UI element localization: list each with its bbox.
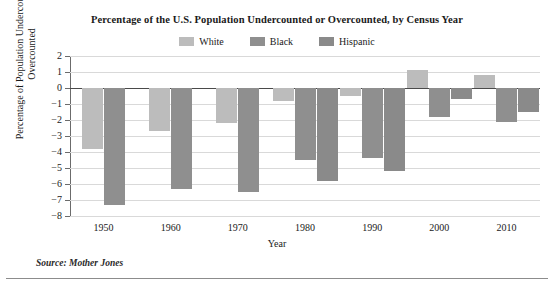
y-tick-mark <box>65 120 70 121</box>
y-tick-label: 2 <box>22 51 62 61</box>
y-tick-mark <box>65 152 70 153</box>
bar-black-2000 <box>429 88 450 117</box>
legend-item-white: White <box>179 36 223 47</box>
y-tick-mark <box>65 56 70 57</box>
y-tick-label: −5 <box>22 163 62 173</box>
x-tick-label-2010: 2010 <box>476 222 536 233</box>
x-tick-label-1950: 1950 <box>74 222 134 233</box>
gridline <box>70 184 540 185</box>
y-tick-label: 0 <box>22 83 62 93</box>
y-tick-mark <box>65 88 70 89</box>
bar-white-1990 <box>340 88 361 96</box>
bar-black-1970 <box>238 88 259 192</box>
gridline <box>70 56 540 57</box>
y-tick-label: −8 <box>22 211 62 221</box>
y-tick-label: −1 <box>22 99 62 109</box>
x-tick-label-1980: 1980 <box>275 222 335 233</box>
y-tick-mark <box>65 136 70 137</box>
legend-label-white: White <box>199 36 223 47</box>
x-axis-title: Year <box>0 238 554 249</box>
bar-black-1980 <box>295 88 316 160</box>
bar-hispanic-1990 <box>384 88 405 171</box>
legend-item-hispanic: Hispanic <box>319 36 375 47</box>
bar-white-2000 <box>407 70 428 88</box>
bar-black-2010 <box>496 88 517 122</box>
y-tick-mark <box>65 216 70 217</box>
legend-item-black: Black <box>250 36 293 47</box>
y-tick-label: −3 <box>22 131 62 141</box>
bar-hispanic-1980 <box>317 88 338 181</box>
bar-black-1990 <box>362 88 383 158</box>
y-tick-label: −4 <box>22 147 62 157</box>
bar-black-1950 <box>104 88 125 205</box>
y-tick-mark <box>65 168 70 169</box>
legend-swatch-hispanic <box>319 37 334 46</box>
plot-area <box>70 56 540 216</box>
gridline <box>70 200 540 201</box>
bar-hispanic-2010 <box>518 88 539 112</box>
y-tick-label: −7 <box>22 195 62 205</box>
y-tick-mark <box>65 72 70 73</box>
y-tick-label: −2 <box>22 115 62 125</box>
gridline <box>70 168 540 169</box>
legend-label-black: Black <box>270 36 293 47</box>
bar-hispanic-2000 <box>451 88 472 99</box>
bar-white-1970 <box>216 88 237 123</box>
bar-white-2010 <box>474 75 495 88</box>
y-tick-label: 1 <box>22 67 62 77</box>
y-tick-mark <box>65 184 70 185</box>
chart-legend: White Black Hispanic <box>0 36 554 47</box>
x-tick-label-1970: 1970 <box>208 222 268 233</box>
gridline <box>70 216 540 217</box>
y-tick-label: −6 <box>22 179 62 189</box>
bar-white-1950 <box>82 88 103 149</box>
x-tick-label-1960: 1960 <box>141 222 201 233</box>
y-tick-mark <box>65 104 70 105</box>
bar-white-1980 <box>273 88 294 101</box>
legend-swatch-black <box>250 37 265 46</box>
chart-figure: Percentage of the U.S. Population Underc… <box>0 0 554 291</box>
legend-swatch-white <box>179 37 194 46</box>
x-tick-label-2000: 2000 <box>409 222 469 233</box>
x-tick-label-1990: 1990 <box>342 222 402 233</box>
gridline <box>70 72 540 73</box>
chart-title: Percentage of the U.S. Population Underc… <box>0 14 554 25</box>
bar-white-1960 <box>149 88 170 131</box>
bar-black-1960 <box>171 88 192 189</box>
legend-label-hispanic: Hispanic <box>339 36 375 47</box>
source-note: Source: Mother Jones <box>36 258 123 268</box>
bottom-divider <box>6 278 548 279</box>
y-tick-mark <box>65 200 70 201</box>
